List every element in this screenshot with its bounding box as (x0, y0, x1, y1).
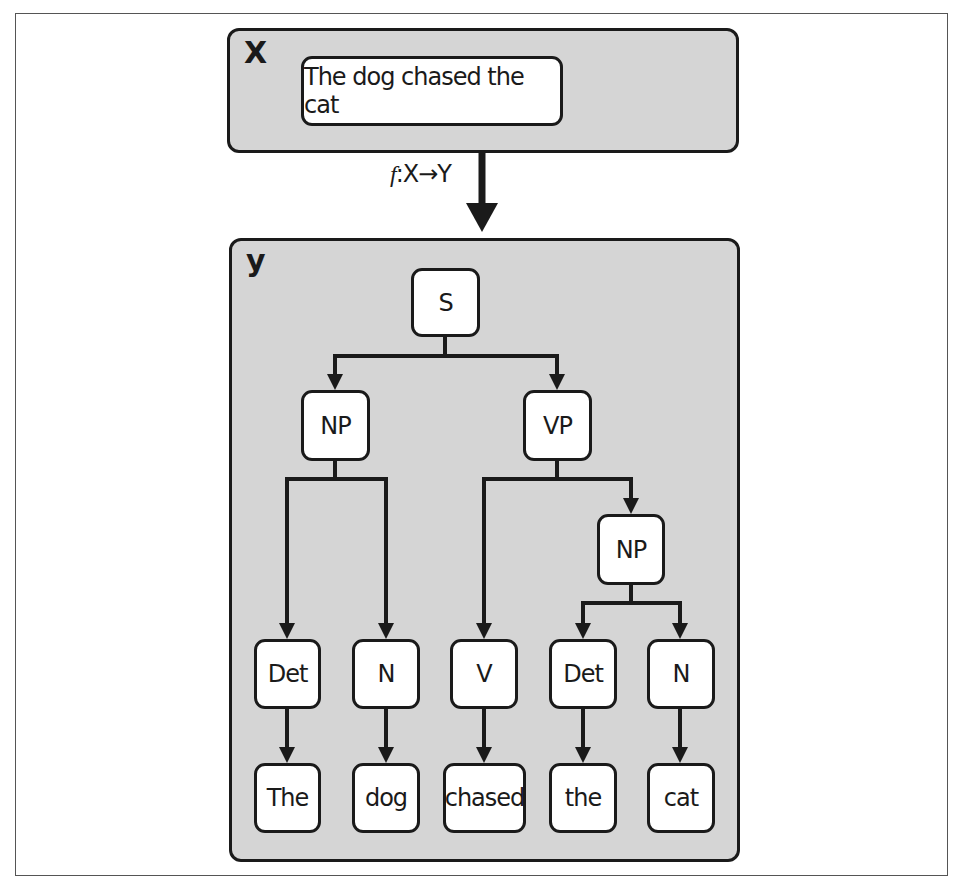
node-s: S (411, 268, 480, 337)
node-word-dog: dog (352, 763, 420, 833)
tree-edges (0, 0, 965, 891)
node-word-the-1: The (254, 763, 321, 833)
node-word-chased: chased (443, 763, 526, 833)
node-word-the-2: the (549, 763, 617, 833)
node-pos-n-2: N (647, 639, 715, 709)
node-np-subject: NP (301, 390, 370, 461)
mapping-arrow-head (466, 203, 498, 232)
node-word-cat: cat (647, 763, 715, 833)
node-pos-v: V (450, 639, 518, 709)
node-pos-det-2: Det (549, 639, 617, 709)
node-pos-det-1: Det (254, 639, 321, 709)
node-pos-n-1: N (352, 639, 420, 709)
node-vp: VP (523, 390, 592, 461)
node-np-object: NP (597, 514, 665, 585)
